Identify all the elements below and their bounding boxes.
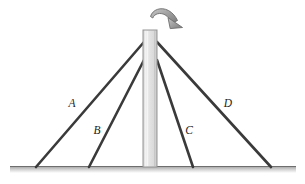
rotation-arrow xyxy=(151,9,183,29)
wire-label-d: D xyxy=(223,97,233,109)
pole-group xyxy=(143,30,157,167)
pole-guy-wire-diagram: A B C D xyxy=(0,0,305,184)
wire-label-c: C xyxy=(185,124,193,136)
diagram-canvas: A B C D xyxy=(0,0,305,184)
guy-wire-b xyxy=(89,60,144,167)
wire-label-b: B xyxy=(93,124,100,136)
guy-wire-d xyxy=(157,42,271,167)
guy-wire-a xyxy=(36,42,144,167)
wire-label-a: A xyxy=(67,97,76,109)
